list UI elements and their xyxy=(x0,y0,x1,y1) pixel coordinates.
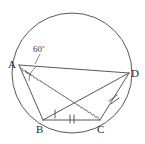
angle-measure-label: 60˚ xyxy=(33,44,45,54)
vertex-label-C: C xyxy=(97,123,104,135)
vertex-label-A: A xyxy=(8,58,16,70)
vertex-label-B: B xyxy=(36,123,43,135)
geometry-figure-container: A B C D 60˚ xyxy=(0,0,145,144)
angle-label-leader xyxy=(35,54,40,64)
segment-AD xyxy=(19,65,129,73)
tick-angle-A xyxy=(25,71,31,75)
circumscribed-circle xyxy=(12,13,132,133)
geometry-figure-svg: A B C D 60˚ xyxy=(0,0,145,144)
vertex-label-D: D xyxy=(131,67,139,79)
